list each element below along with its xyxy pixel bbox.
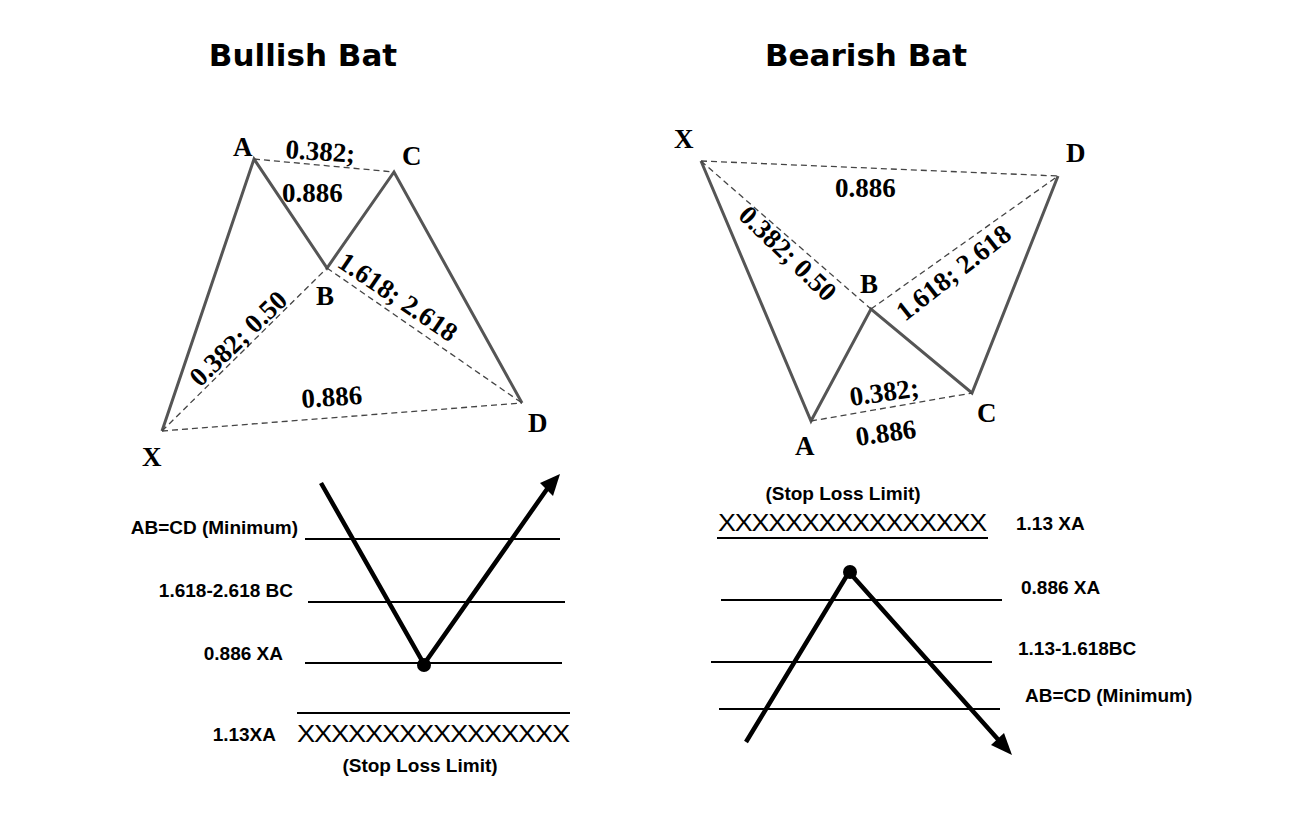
bearish-pattern: X D B A C 0.886 0.382; 0.50 1.618; 2.618… bbox=[674, 124, 1086, 461]
bat-pattern-diagram: Bullish Bat A C B X D 0.382; 0.886 0.382… bbox=[0, 0, 1307, 816]
bearish-point-a: A bbox=[795, 431, 815, 461]
bearish-ratio-xd: 0.886 bbox=[835, 173, 896, 203]
bullish-point-a: A bbox=[233, 132, 253, 162]
bearish-level-abcd: AB=CD (Minimum) bbox=[1025, 685, 1192, 706]
bearish-title: Bearish Bat bbox=[765, 37, 967, 73]
bullish-ratio-ac-top: 0.382; bbox=[285, 134, 357, 169]
bullish-levels: AB=CD (Minimum) 1.618-2.618 BC 0.886 XA … bbox=[131, 474, 570, 776]
bearish-point-b: B bbox=[860, 269, 878, 299]
bullish-point-x: X bbox=[142, 442, 162, 472]
bullish-stop-marks: XXXXXXXXXXXXXXXX bbox=[297, 721, 570, 747]
bearish-point-x: X bbox=[674, 124, 694, 154]
bullish-bat-panel: Bullish Bat A C B X D 0.382; 0.886 0.382… bbox=[131, 37, 570, 776]
bullish-level-xa: 0.886 XA bbox=[204, 643, 283, 664]
bullish-price-path bbox=[321, 482, 552, 664]
bullish-title: Bullish Bat bbox=[209, 37, 397, 73]
bearish-point-c: C bbox=[977, 398, 997, 428]
bearish-bat-panel: Bearish Bat X D B A C 0.886 0.382; 0.50 … bbox=[674, 37, 1192, 755]
bearish-ratio-bd: 1.618; 2.618 bbox=[890, 219, 1017, 327]
bullish-stop-label: (Stop Loss Limit) bbox=[342, 755, 497, 776]
bearish-price-path bbox=[746, 572, 1003, 745]
bearish-entry-dot-icon bbox=[843, 565, 857, 579]
bullish-ratio-ac-bottom: 0.886 bbox=[282, 178, 343, 208]
bullish-pattern: A C B X D 0.382; 0.886 0.382; 0.50 1.618… bbox=[142, 132, 548, 472]
bullish-point-d: D bbox=[528, 408, 548, 438]
bullish-entry-dot-icon bbox=[417, 658, 431, 672]
bearish-stop-marks: XXXXXXXXXXXXXXXX bbox=[718, 510, 987, 536]
bearish-ratio-ac-bottom: 0.886 bbox=[854, 414, 918, 452]
bullish-point-b: B bbox=[316, 281, 334, 311]
bullish-ratio-xb: 0.382; 0.50 bbox=[183, 285, 293, 393]
bullish-level-abcd: AB=CD (Minimum) bbox=[131, 517, 298, 538]
bearish-ratio-ac-top: 0.382; bbox=[848, 373, 921, 412]
bearish-level-stop: 1.13 XA bbox=[1016, 513, 1085, 534]
bullish-level-bc: 1.618-2.618 BC bbox=[159, 580, 293, 601]
bullish-level-stop: 1.13XA bbox=[213, 724, 277, 745]
bearish-bd-line bbox=[871, 176, 1058, 309]
bearish-stop-label: (Stop Loss Limit) bbox=[765, 483, 920, 504]
bullish-ratio-xd: 0.886 bbox=[300, 380, 363, 414]
bearish-ratio-xb: 0.382; 0.50 bbox=[733, 200, 843, 308]
bearish-point-d: D bbox=[1066, 138, 1086, 168]
bearish-levels: (Stop Loss Limit) XXXXXXXXXXXXXXXX 1.13 … bbox=[711, 483, 1192, 755]
bullish-point-c: C bbox=[402, 141, 422, 171]
bearish-level-xa: 0.886 XA bbox=[1021, 577, 1100, 598]
bearish-level-bc: 1.13-1.618BC bbox=[1018, 638, 1137, 659]
